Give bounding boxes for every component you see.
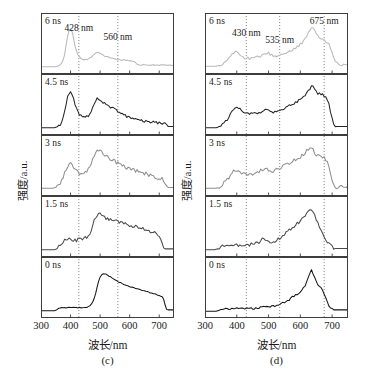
trace-d-6ns [205, 28, 348, 67]
row-label-c-3: 1.5 ns [45, 199, 68, 209]
x-tick-label-700: 700 [151, 320, 167, 331]
panel-frame [42, 136, 174, 196]
x-tick-label-600: 600 [122, 320, 138, 331]
row-label-d-3: 1.5 ns [209, 199, 232, 209]
x-tick-label-400: 400 [63, 320, 79, 331]
trace-c-3ns [41, 150, 174, 188]
x-tick-label-600: 600 [292, 320, 308, 331]
trace-d-4.5ns [205, 86, 348, 128]
spectra-figure: 6 ns4.5 ns3 ns1.5 ns0 ns428 nm560 nm3004… [0, 0, 366, 381]
x-tick-label-300: 300 [197, 320, 213, 331]
trace-c-4.5ns [41, 92, 174, 128]
peak-label-428-nm: 428 nm [64, 23, 93, 33]
peak-label-560-nm: 560 nm [103, 32, 132, 42]
x-tick-label-300: 300 [33, 320, 49, 331]
y-axis-label-d: 强度/a.u. [178, 126, 194, 236]
x-axis-label-d: 波长/nm [205, 336, 348, 352]
y-axis-label-c: 强度/a.u. [14, 126, 30, 236]
trace-d-1.5ns [205, 210, 348, 250]
row-label-d-2: 3 ns [209, 138, 225, 148]
row-label-d-4: 0 ns [209, 260, 225, 270]
x-tick-label-500: 500 [92, 320, 108, 331]
x-tick-label-500: 500 [261, 320, 277, 331]
peak-label-430-nm: 430 nm [232, 28, 261, 38]
peak-label-675-nm: 675 nm [310, 16, 339, 26]
panel-frame [206, 136, 348, 196]
panel-caption-d: (d) [205, 354, 348, 366]
trace-d-3ns [205, 148, 348, 189]
x-axis-label-c: 波长/nm [41, 336, 174, 352]
peak-label-535-nm: 535 nm [265, 35, 294, 45]
x-tick-label-400: 400 [229, 320, 245, 331]
trace-c-1.5ns [41, 213, 174, 250]
row-label-c-0: 6 ns [45, 16, 61, 26]
row-label-d-0: 6 ns [209, 16, 225, 26]
panel-caption-c: (c) [41, 354, 174, 366]
trace-d-0ns [205, 270, 348, 312]
x-tick-label-700: 700 [324, 320, 340, 331]
row-label-c-1: 4.5 ns [45, 77, 68, 87]
panel-d [205, 13, 348, 318]
panel-c [41, 13, 174, 318]
panel-frame [42, 258, 174, 318]
trace-c-0ns [41, 274, 174, 311]
row-label-d-1: 4.5 ns [209, 77, 232, 87]
row-label-c-2: 3 ns [45, 138, 61, 148]
row-label-c-4: 0 ns [45, 260, 61, 270]
